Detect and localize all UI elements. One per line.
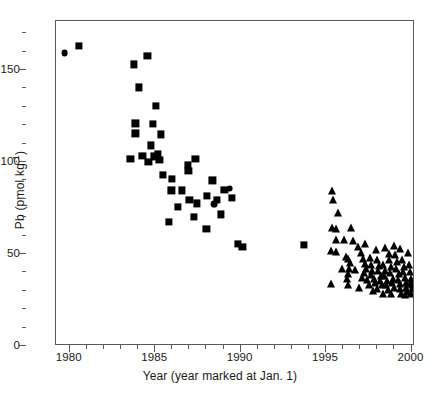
y-tick-140 xyxy=(22,87,26,88)
data-point-triangle xyxy=(332,236,340,244)
data-point-triangle xyxy=(338,264,346,272)
x-tick-1983 xyxy=(120,345,121,349)
x-tick-1999 xyxy=(393,345,394,349)
x-tick-1996 xyxy=(342,345,343,349)
plot-area xyxy=(56,21,413,344)
chart-root: Pb (pmol kg-1) Year (year marked at Jan.… xyxy=(0,0,440,394)
data-point-square xyxy=(190,214,197,221)
x-tick-label-2000: 2000 xyxy=(398,351,424,363)
y-tick-50 xyxy=(19,253,26,254)
y-tick-70 xyxy=(22,216,26,217)
y-tick-30 xyxy=(22,290,26,291)
data-point-triangle xyxy=(404,249,412,257)
x-tick-1981 xyxy=(86,345,87,349)
data-point-square xyxy=(186,196,193,203)
x-tick-label-1985: 1985 xyxy=(141,351,167,363)
data-point-square xyxy=(175,203,182,210)
data-point-triangle xyxy=(344,281,352,289)
data-point-square xyxy=(239,243,246,250)
data-point-triangle xyxy=(379,289,387,297)
x-tick-1993 xyxy=(291,345,292,349)
data-point-square xyxy=(165,218,172,225)
data-point-square xyxy=(135,84,142,91)
x-tick-1991 xyxy=(257,345,258,349)
data-point-triangle xyxy=(355,284,363,292)
y-tick-90 xyxy=(22,179,26,180)
data-point-triangle xyxy=(351,265,359,273)
y-tick-60 xyxy=(22,235,26,236)
data-point-square xyxy=(185,168,192,175)
y-tick-110 xyxy=(22,143,26,144)
y-tick-label-100: 100 xyxy=(1,155,21,167)
plot-frame xyxy=(55,20,414,345)
data-point-square xyxy=(300,241,307,248)
x-tick-1982 xyxy=(103,345,104,349)
data-point-square xyxy=(156,157,163,164)
data-point-circle xyxy=(211,201,218,208)
data-point-square xyxy=(158,131,165,138)
data-point-circle xyxy=(61,50,68,57)
x-tick-1994 xyxy=(308,345,309,349)
data-point-square xyxy=(168,187,175,194)
x-tick-label-1990: 1990 xyxy=(227,351,253,363)
data-point-square xyxy=(217,211,224,218)
x-tick-1988 xyxy=(205,345,206,349)
data-point-triangle xyxy=(329,195,337,203)
data-point-triangle xyxy=(369,286,377,294)
y-tick-40 xyxy=(22,271,26,272)
data-point-triangle xyxy=(408,281,413,289)
y-tick-label-150: 150 xyxy=(1,63,21,75)
data-point-square xyxy=(147,142,154,149)
data-point-triangle xyxy=(396,245,404,253)
data-point-square xyxy=(204,192,211,199)
data-point-triangle xyxy=(349,237,357,245)
data-point-triangle xyxy=(361,239,369,247)
y-tick-20 xyxy=(22,308,26,309)
data-point-triangle xyxy=(381,244,389,252)
data-point-triangle xyxy=(387,289,395,297)
y-tick-0 xyxy=(19,345,26,346)
y-tick-170 xyxy=(22,32,26,33)
x-tick-label-1980: 1980 xyxy=(56,351,82,363)
data-point-square xyxy=(178,187,185,194)
data-point-triangle xyxy=(327,280,335,288)
data-point-square xyxy=(149,121,156,128)
x-axis-title: Year (year marked at Jan. 1) xyxy=(0,369,440,383)
data-point-square xyxy=(193,200,200,207)
data-point-square xyxy=(145,158,152,165)
data-point-square xyxy=(228,194,235,201)
data-point-triangle xyxy=(332,248,340,256)
data-point-square xyxy=(159,171,166,178)
x-tick-label-1995: 1995 xyxy=(312,351,338,363)
data-point-triangle xyxy=(328,187,336,195)
data-point-square xyxy=(132,120,139,127)
x-tick-1986 xyxy=(171,345,172,349)
data-point-triangle xyxy=(347,224,355,232)
y-tick-160 xyxy=(22,51,26,52)
data-point-square xyxy=(75,42,82,49)
x-tick-1998 xyxy=(376,345,377,349)
y-tick-10 xyxy=(22,327,26,328)
y-tick-130 xyxy=(22,106,26,107)
y-tick-label-50: 50 xyxy=(7,247,20,259)
y-tick-150 xyxy=(19,69,26,70)
data-point-square xyxy=(169,175,176,182)
x-tick-1992 xyxy=(274,345,275,349)
y-tick-100 xyxy=(19,161,26,162)
data-point-square xyxy=(130,61,137,68)
data-point-square xyxy=(203,226,210,233)
data-point-triangle xyxy=(332,225,340,233)
data-point-square xyxy=(152,102,159,109)
y-tick-80 xyxy=(22,198,26,199)
x-tick-1984 xyxy=(137,345,138,349)
x-tick-1987 xyxy=(188,345,189,349)
data-point-square xyxy=(209,177,216,184)
data-point-triangle xyxy=(334,209,342,217)
data-point-square xyxy=(132,130,139,137)
data-point-square xyxy=(127,156,134,163)
y-tick-label-0: 0 xyxy=(14,339,21,351)
data-point-triangle xyxy=(401,291,409,299)
data-point-square xyxy=(192,156,199,163)
data-point-square xyxy=(144,53,151,60)
x-tick-1997 xyxy=(359,345,360,349)
